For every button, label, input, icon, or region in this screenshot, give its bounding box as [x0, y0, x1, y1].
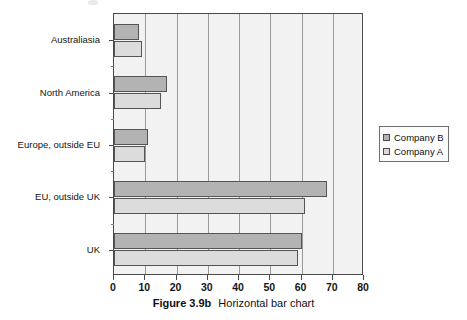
x-axis-tick-label: 10	[138, 281, 150, 293]
gridline	[302, 14, 303, 274]
bar-company-b	[114, 233, 302, 249]
x-axis-tick-labels: 01020304050607080	[0, 281, 467, 297]
legend-swatch-icon	[383, 148, 390, 155]
bar-company-a	[114, 41, 142, 57]
bar-company-a	[114, 93, 161, 109]
x-axis-tick-label: 0	[110, 281, 116, 293]
x-axis-tick	[207, 275, 208, 280]
x-axis-tick-label: 80	[357, 281, 369, 293]
x-axis-tick	[363, 275, 364, 280]
legend-swatch-icon	[383, 134, 390, 141]
figure-caption-label: Figure 3.9b	[153, 297, 212, 309]
x-axis-tick	[176, 275, 177, 280]
legend-label: Company B	[394, 132, 444, 143]
bar-company-b	[114, 24, 139, 40]
x-axis-tick	[301, 275, 302, 280]
legend-item: Company A	[383, 144, 444, 158]
bar-company-b	[114, 129, 148, 145]
bar-company-b	[114, 181, 327, 197]
plot-area	[113, 13, 363, 275]
legend-item: Company B	[383, 130, 444, 144]
x-axis-tick	[332, 275, 333, 280]
x-axis-tick-label: 20	[170, 281, 182, 293]
x-axis-tick	[238, 275, 239, 280]
y-axis-category-labels: UKEU, outside UKEurope, outside EUNorth …	[0, 13, 108, 275]
figure-caption: Figure 3.9bHorizontal bar chart	[0, 297, 467, 309]
y-axis-tick	[109, 250, 114, 251]
figure-horizontal-bar-chart: UKEU, outside UKEurope, outside EUNorth …	[0, 0, 467, 320]
bar-company-a	[114, 198, 305, 214]
y-axis-minor-tick	[111, 66, 114, 67]
gridline	[333, 14, 334, 274]
y-axis-tick	[109, 145, 114, 146]
y-axis-category-label: North America	[0, 86, 108, 97]
x-axis-tick-label: 60	[295, 281, 307, 293]
x-axis-tick	[144, 275, 145, 280]
figure-caption-text: Horizontal bar chart	[218, 297, 314, 309]
y-axis-category-label: Europe, outside EU	[0, 139, 108, 150]
x-axis-tick-label: 30	[201, 281, 213, 293]
chart-legend: Company BCompany A	[379, 126, 449, 162]
legend-label: Company A	[394, 146, 443, 157]
x-axis-tick-label: 70	[326, 281, 338, 293]
bar-company-a	[114, 250, 298, 266]
y-axis-minor-tick	[111, 171, 114, 172]
y-axis-minor-tick	[111, 119, 114, 120]
x-axis-tick	[269, 275, 270, 280]
x-axis-tick	[113, 275, 114, 280]
y-axis-tick	[109, 93, 114, 94]
y-axis-category-label: Australiasia	[0, 34, 108, 45]
x-axis-tick-label: 50	[263, 281, 275, 293]
y-axis-tick	[109, 197, 114, 198]
scan-artifact	[88, 0, 98, 5]
bar-company-b	[114, 76, 167, 92]
x-axis-tick-label: 40	[232, 281, 244, 293]
y-axis-tick	[109, 40, 114, 41]
y-axis-category-label: UK	[0, 243, 108, 254]
y-axis-category-label: EU, outside UK	[0, 191, 108, 202]
y-axis-minor-tick	[111, 224, 114, 225]
bar-company-a	[114, 146, 145, 162]
